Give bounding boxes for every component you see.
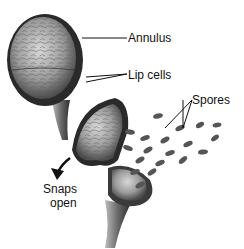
label-lip-cells: Lip cells [128,69,171,81]
open-sporangium [72,98,152,248]
label-open: open [50,197,77,209]
label-spores: Spores [192,94,230,106]
sporangium-illustration [0,0,244,249]
label-annulus: Annulus [128,32,171,44]
label-snaps: Snaps [43,183,77,195]
snaps-open-arrow-icon [51,158,70,180]
closed-sporangium [7,14,83,140]
